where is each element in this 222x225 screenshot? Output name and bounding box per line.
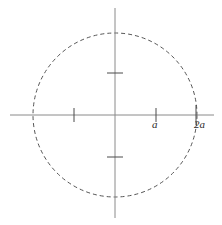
x-tick-label-a: a — [152, 119, 158, 130]
coordinate-plot-svg — [0, 0, 222, 225]
math-figure-circle-radius-2a: a 2a — [0, 0, 222, 225]
x-tick-label-2a: 2a — [194, 119, 205, 130]
